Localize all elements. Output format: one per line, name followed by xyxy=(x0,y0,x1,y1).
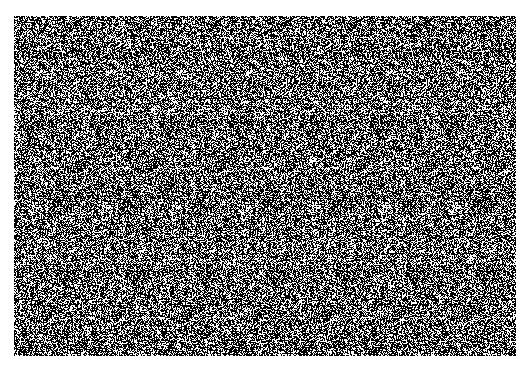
random-dot-stereogram xyxy=(14,16,516,356)
